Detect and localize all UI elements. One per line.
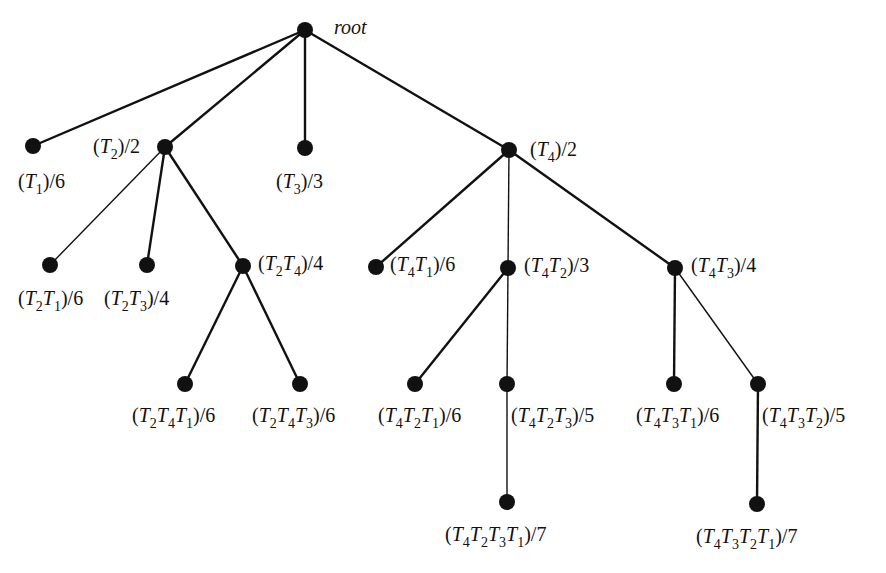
label-T4T2T1: (T4T2T1)/6 (378, 404, 461, 431)
node-T2T3 (139, 257, 155, 273)
node-T2T1 (42, 257, 58, 273)
label-root: root (334, 16, 367, 38)
label-T2: (T2)/2 (93, 135, 140, 162)
edge-T4T2-T4T2T3 (507, 268, 508, 384)
edge-T4-T4T3 (509, 150, 675, 268)
label-T2T4: (T2T4)/4 (258, 252, 323, 279)
node-T4T3T2 (750, 376, 766, 392)
edge-T4-T4T1 (376, 150, 509, 267)
label-T1: (T1)/6 (18, 170, 65, 197)
label-T4T2: (T4T2)/3 (524, 254, 589, 281)
edge-root-T2 (165, 30, 305, 147)
node-T2 (157, 139, 173, 155)
node-T2T4T1 (177, 376, 193, 392)
edge-T4-T4T2 (508, 150, 509, 268)
label-T2T4T3: (T2T4T3)/6 (252, 404, 335, 431)
label-T4T3: (T4T3)/4 (691, 254, 756, 281)
node-T1 (25, 138, 41, 154)
node-T4T1 (368, 259, 384, 275)
label-T4T2T3T1: (T4T2T3T1)/7 (445, 523, 546, 550)
node-T4T2T3 (499, 376, 515, 392)
edge-root-T4 (305, 30, 509, 150)
label-T4T1: (T4T1)/6 (390, 253, 455, 280)
edge-T2-T2T3 (147, 147, 165, 265)
edge-T4T3-T4T3T2 (675, 268, 758, 384)
edge-T4T3T2-T4T3T2T1 (757, 384, 758, 504)
node-T2T4 (235, 258, 251, 274)
node-T4T3 (667, 260, 683, 276)
label-T4T3T1: (T4T3T1)/6 (636, 404, 719, 431)
edge-T2T4-T2T4T1 (185, 266, 243, 384)
node-T2T4T3 (292, 376, 308, 392)
node-T4T2T1 (407, 376, 423, 392)
edge-T2-T2T1 (50, 147, 165, 265)
node-T4 (501, 142, 517, 158)
edge-T2-T2T4 (165, 147, 243, 266)
label-T4: (T4)/2 (530, 138, 577, 165)
tree-diagram: root (T1)/6 (T2)/2 (T3)/3 (T4)/2 (T2T1)/… (0, 0, 886, 573)
node-root (297, 22, 313, 38)
labels: root (T1)/6 (T2)/2 (T3)/3 (T4)/2 (T2T1)/… (18, 16, 845, 552)
node-T4T2T3T1 (499, 494, 515, 510)
node-T3 (297, 140, 313, 156)
edge-T2T4-T2T4T3 (243, 266, 300, 384)
edge-root-T1 (33, 30, 305, 146)
label-T4T3T2T1: (T4T3T2T1)/7 (696, 525, 797, 552)
label-T2T4T1: (T2T4T1)/6 (132, 404, 215, 431)
node-T4T3T1 (666, 376, 682, 392)
edge-T4T3-T4T3T1 (674, 268, 675, 384)
label-T2T3: (T2T3)/4 (104, 287, 169, 314)
edge-T4T2-T4T2T1 (415, 268, 508, 384)
label-T4T2T3: (T4T2T3)/5 (511, 404, 594, 431)
node-T4T3T2T1 (749, 496, 765, 512)
node-T4T2 (500, 260, 516, 276)
label-T2T1: (T2T1)/6 (18, 287, 83, 314)
label-T4T3T2: (T4T3T2)/5 (762, 404, 845, 431)
label-T3: (T3)/3 (276, 170, 323, 197)
